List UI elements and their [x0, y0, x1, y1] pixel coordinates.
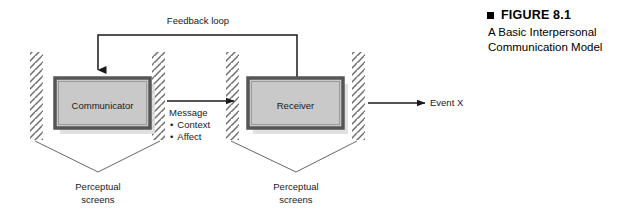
figure-caption-title-row: FIGURE 8.1	[487, 9, 622, 23]
perceptual-screen-right-outer	[352, 52, 365, 140]
feedback-loop-label: Feedback loop	[167, 15, 229, 26]
funnel-lines-right	[231, 141, 357, 172]
figure-caption-line1: A Basic Interpersonal	[488, 25, 622, 40]
funnel-lines-left	[35, 141, 160, 172]
node-receiver-label: Receiver	[277, 100, 315, 111]
feedback-loop-connector	[98, 35, 297, 78]
perceptual-screens-label-left-line2: screens	[81, 194, 115, 205]
figure-container: Communicator Receiver Feedback loop Mess…	[0, 0, 625, 221]
perceptual-screens-label-right-line1: Perceptual	[273, 181, 318, 192]
bullet-glyph-affect: •	[170, 131, 173, 142]
figure-caption-line2: Communication Model	[488, 40, 622, 55]
message-item-affect: •Affect	[170, 131, 202, 142]
perceptual-screens-label-right-line2: screens	[279, 194, 313, 205]
figure-caption: FIGURE 8.1 A Basic Interpersonal Communi…	[487, 9, 622, 55]
node-communicator: Communicator	[55, 78, 155, 134]
message-item-context: •Context	[170, 119, 210, 130]
figure-number-label: FIGURE 8.1	[501, 9, 571, 23]
perceptual-screen-right-inner	[226, 52, 239, 140]
perceptual-screens-label-left-line1: Perceptual	[75, 181, 120, 192]
event-x-label: Event X	[430, 97, 464, 108]
bullet-glyph-context: •	[170, 119, 173, 130]
square-bullet-icon	[487, 12, 494, 19]
perceptual-screen-left-outer	[30, 52, 43, 140]
message-label: Message	[169, 107, 208, 118]
node-receiver: Receiver	[248, 78, 348, 134]
node-communicator-label: Communicator	[72, 100, 134, 111]
